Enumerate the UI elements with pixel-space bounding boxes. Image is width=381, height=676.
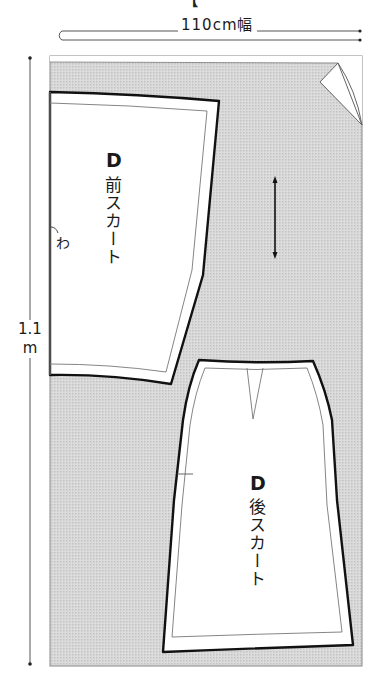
fold-label: わ	[56, 236, 70, 250]
length-unit: m	[18, 339, 42, 358]
front-skirt-name: 前スカート	[103, 176, 120, 266]
length-value: 1.1	[18, 320, 42, 339]
fabric-width-label: 110cm幅	[178, 18, 257, 33]
layout-diagram	[0, 0, 381, 676]
fabric-length-label: 1.1 m	[18, 320, 42, 358]
front-skirt-letter: D	[106, 151, 122, 170]
back-skirt-name: 後スカート	[247, 498, 264, 588]
back-skirt-letter: D	[250, 474, 266, 493]
length-dimension-line	[28, 56, 32, 666]
